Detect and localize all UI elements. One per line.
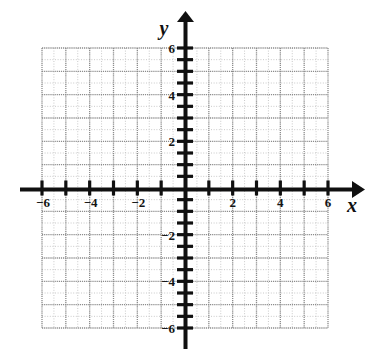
x-axis-tick-label: 4 [277,195,284,210]
y-axis-tick-label: 4 [169,88,176,103]
y-axis-tick-label: 2 [169,134,176,149]
x-axis-tick-label: 2 [229,195,236,210]
y-axis-tick-label: −4 [161,274,175,289]
y-axis-label: y [158,17,169,40]
y-axis-tick-label: 6 [169,41,176,56]
y-axis-tick-label: −2 [161,228,175,243]
x-axis-label: x [346,194,357,216]
x-axis-tick-label: −2 [131,195,145,210]
x-axis-tick-label: −6 [36,195,50,210]
x-axis-tick-label: 6 [325,195,332,210]
x-axis-tick-label: −4 [84,195,98,210]
coordinate-plane-graph: −6−4−2246642−2−4−6 y x [0,0,379,352]
figure-canvas: −6−4−2246642−2−4−6 y x [0,0,379,352]
y-axis-tick-label: −6 [161,321,175,336]
